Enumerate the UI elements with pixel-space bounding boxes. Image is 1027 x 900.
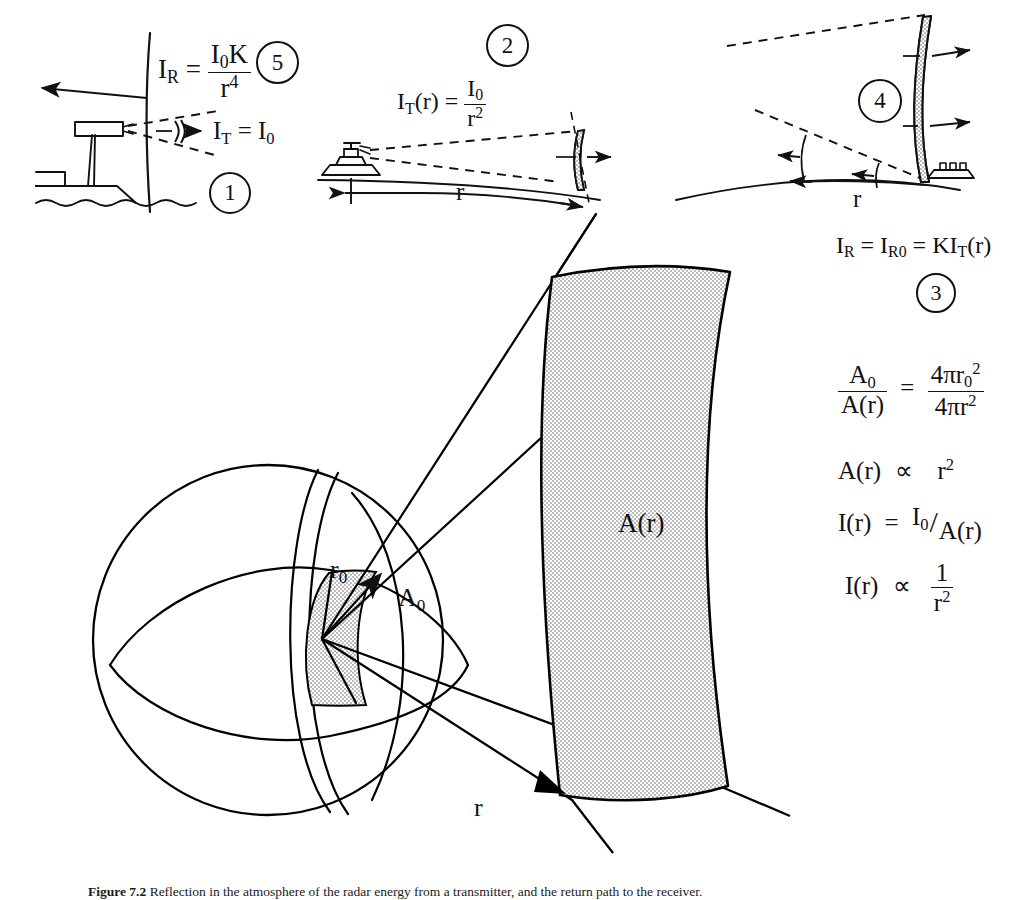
eq5-lhs-sub: R bbox=[167, 67, 179, 87]
label-A0: A0 bbox=[398, 583, 425, 616]
intensity-def-ratio: I0/A(r) bbox=[912, 505, 982, 542]
panel-1-wavefront-glyph bbox=[156, 120, 201, 143]
eq3-eq1: = bbox=[861, 232, 875, 258]
eq5-equals: = bbox=[186, 54, 201, 84]
intensity-def-num: I bbox=[912, 503, 920, 530]
eq2-denominator: r2 bbox=[464, 104, 486, 132]
inv-sq-fraction: 1 r2 bbox=[925, 560, 954, 616]
equation-panel-3: IR = IR0 = KIT(r) bbox=[836, 232, 991, 261]
area-ratio-equals: = bbox=[893, 374, 921, 401]
eq3-IR0: I bbox=[880, 232, 888, 258]
inv-sq-den: r bbox=[934, 588, 942, 615]
eq2-numerator: I0 bbox=[464, 76, 486, 104]
step-marker-5[interactable]: 5 bbox=[256, 41, 299, 84]
panel-2-target-wavefront bbox=[556, 112, 611, 208]
intensity-def-lhs: I(r) bbox=[838, 509, 871, 536]
area-ratio-lhs-den: A(r) bbox=[841, 391, 884, 418]
inv-sq-op: ∝ bbox=[885, 572, 919, 599]
area-prop-op: ∝ bbox=[887, 457, 921, 484]
area-prop-rhs: r bbox=[928, 457, 946, 484]
intensity-def-slash: / bbox=[929, 505, 939, 538]
eq5-fraction: I0K r4 bbox=[208, 40, 251, 103]
equation-panel-2: IT(r) = I0 r2 bbox=[397, 76, 486, 132]
inv-sq-num: 1 bbox=[931, 560, 954, 587]
label-r-sphere: r bbox=[474, 793, 483, 823]
intensity-def-den: A(r) bbox=[939, 517, 982, 544]
figure-caption: Figure 7.2 Reflection in the atmosphere … bbox=[88, 884, 968, 900]
inv-sq-lhs: I(r) bbox=[845, 572, 878, 599]
eq3-K: K bbox=[932, 232, 949, 258]
area-ratio-rhs-num: 4πr bbox=[931, 361, 964, 388]
panel-1-reflected-ray bbox=[42, 88, 147, 98]
equation-area-ratio: A0 A(r) = 4πr02 4πr2 bbox=[838, 360, 984, 420]
eq5-denominator: r4 bbox=[208, 72, 251, 103]
eq3-eq2: = bbox=[913, 232, 927, 258]
caption-label: Figure 7.2 bbox=[88, 884, 146, 899]
label-range-panel-4: r bbox=[853, 185, 861, 213]
panel-1-transmit-beam bbox=[128, 111, 218, 156]
eq3-IT-sub: T bbox=[957, 243, 967, 260]
area-ratio-rhs-den: 4πr bbox=[935, 392, 968, 419]
equation-panel-5: IR = I0K r4 bbox=[158, 40, 251, 103]
eq3-IR-sub: R bbox=[844, 243, 855, 260]
area-ratio-lhs: A0 A(r) bbox=[838, 362, 887, 419]
eq5-numerator: I0K bbox=[208, 40, 251, 72]
step-marker-4[interactable]: 4 bbox=[858, 79, 902, 123]
equation-intensity-definition: I(r) = I0/A(r) bbox=[838, 507, 982, 544]
area-ratio-rhs: 4πr02 4πr2 bbox=[928, 360, 984, 420]
eq5-lhs: I bbox=[158, 54, 167, 84]
figure-root: IR = I0K r4 IT = I0 IT(r) = I0 r2 r r IR… bbox=[0, 0, 1027, 900]
eq2-fraction: I0 r2 bbox=[464, 76, 486, 132]
eq3-IR0-sub: R0 bbox=[888, 243, 906, 260]
step-marker-3[interactable]: 3 bbox=[916, 273, 956, 313]
label-transmit-intensity: IT = I0 bbox=[213, 117, 275, 149]
equation-inverse-square: I(r) ∝ 1 r2 bbox=[845, 560, 953, 616]
panel-4-escape-arrows bbox=[903, 50, 970, 126]
eq3-IR: I bbox=[836, 232, 844, 258]
panel-2-beam-cone bbox=[370, 131, 578, 182]
area-prop-lhs: A(r) bbox=[838, 457, 881, 484]
label-Ar: A(r) bbox=[618, 508, 664, 539]
equation-area-proportional: A(r) ∝ r2 bbox=[838, 455, 954, 485]
eq3-IT-arg: (r) bbox=[967, 232, 991, 258]
area-ratio-lhs-num: A bbox=[849, 361, 867, 388]
label-r0: r0 bbox=[330, 555, 347, 588]
sphere-diagram-artwork bbox=[93, 465, 468, 815]
caption-body: Reflection in the atmosphere of the rada… bbox=[150, 884, 703, 899]
step-marker-1[interactable]: 1 bbox=[209, 172, 251, 214]
diagram-linework bbox=[0, 0, 1027, 900]
intensity-def-equals: = bbox=[878, 509, 906, 536]
label-range-panel-2: r bbox=[456, 178, 464, 206]
panel-4-artwork bbox=[676, 16, 974, 200]
step-marker-2[interactable]: 2 bbox=[486, 24, 529, 67]
